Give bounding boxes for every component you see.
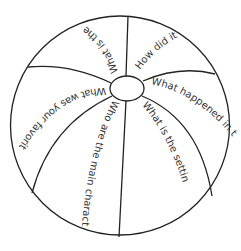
ball-center-cap bbox=[110, 76, 144, 101]
segment-question-top-left: What is the bbox=[80, 25, 120, 75]
segment-question-left: What was your favorite par bbox=[0, 0, 106, 152]
seam-top-left bbox=[28, 66, 111, 83]
segment-question-right: What happened in the bbox=[0, 0, 239, 138]
seam-top bbox=[126, 16, 128, 76]
beach-ball-diagram: What is the How did it e What happened i… bbox=[0, 0, 241, 251]
seam-bottom bbox=[119, 101, 126, 237]
